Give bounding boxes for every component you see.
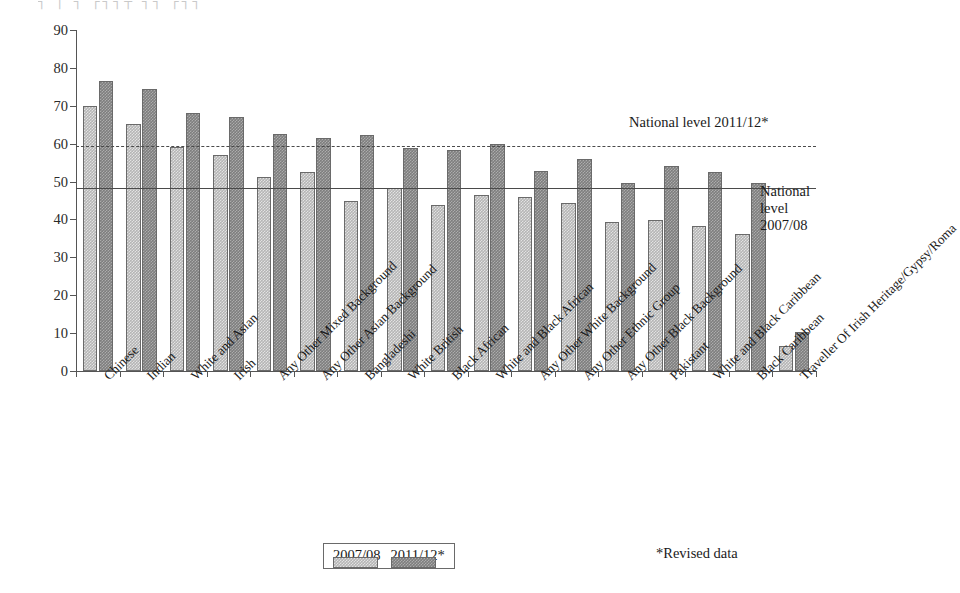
plot-area: ChineseIndianWhite and AsianIrishAny Oth… bbox=[76, 30, 816, 371]
annotation-national-level-2007-08: National level 2007/08 bbox=[760, 183, 844, 234]
x-tick bbox=[76, 371, 77, 377]
reference-line-national-2007-08 bbox=[76, 188, 816, 189]
y-tick-label-0: 0 bbox=[28, 363, 68, 380]
footnote-revised-data: *Revised data bbox=[656, 545, 738, 562]
y-tick-40 bbox=[70, 219, 76, 220]
y-tick-10 bbox=[70, 333, 76, 334]
legend-item-2011-12: 2011/12* bbox=[391, 547, 445, 564]
x-category-label: Traveller Of Irish Heritage/Gypsy/Roma bbox=[797, 221, 960, 384]
y-tick-20 bbox=[70, 295, 76, 296]
y-tick-label-80: 80 bbox=[28, 59, 68, 76]
legend-swatch-2011-12 bbox=[391, 557, 436, 568]
y-tick-label-70: 70 bbox=[28, 97, 68, 114]
y-tick-label-60: 60 bbox=[28, 135, 68, 152]
y-tick-label-40: 40 bbox=[28, 211, 68, 228]
y-tick-label-20: 20 bbox=[28, 287, 68, 304]
y-tick-90 bbox=[70, 30, 76, 31]
annotation-line-2: level bbox=[760, 200, 844, 217]
bar bbox=[99, 81, 114, 371]
annotation-line-3: 2007/08 bbox=[760, 217, 844, 234]
legend-item-2007-08: 2007/08 bbox=[333, 547, 381, 564]
annotation-national-level-2011-12: National level 2011/12* bbox=[629, 114, 769, 131]
y-tick-label-90: 90 bbox=[28, 22, 68, 39]
bar bbox=[186, 113, 201, 371]
y-tick-60 bbox=[70, 144, 76, 145]
bar bbox=[126, 124, 141, 371]
cropped-header-artifact: ┐ │ ┐ ┌┐┐┬ ┐┐ ┌┐┐ bbox=[38, 0, 368, 10]
bar bbox=[273, 134, 288, 371]
bar bbox=[708, 172, 723, 371]
bar bbox=[257, 177, 272, 371]
y-tick-80 bbox=[70, 68, 76, 69]
bar bbox=[142, 89, 157, 371]
y-tick-50 bbox=[70, 182, 76, 183]
y-tick-30 bbox=[70, 257, 76, 258]
y-tick-label-50: 50 bbox=[28, 173, 68, 190]
chart-legend: 2007/08 2011/12* bbox=[323, 543, 455, 569]
y-axis-line bbox=[76, 30, 77, 371]
annotation-line-1: National bbox=[760, 183, 844, 200]
legend-swatch-2007-08 bbox=[333, 557, 378, 568]
y-tick-70 bbox=[70, 106, 76, 107]
y-axis-tick-labels: 0102030405060708090 bbox=[22, 30, 68, 371]
reference-line-national-2011-12 bbox=[76, 146, 816, 147]
y-tick-0 bbox=[70, 371, 76, 372]
y-tick-label-30: 30 bbox=[28, 249, 68, 266]
bar bbox=[170, 147, 185, 371]
y-tick-label-10: 10 bbox=[28, 325, 68, 342]
